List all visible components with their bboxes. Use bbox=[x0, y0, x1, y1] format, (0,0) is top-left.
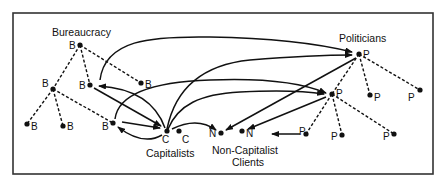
relationship-arrows bbox=[94, 37, 356, 139]
node-label-p: P bbox=[363, 49, 370, 60]
politicians-label: Politicians bbox=[339, 32, 386, 44]
bureaucracy-node bbox=[138, 80, 143, 85]
node-label-b: B bbox=[42, 78, 49, 89]
politician-node bbox=[417, 87, 422, 92]
node-label-p: P bbox=[331, 131, 338, 142]
politician-top-node bbox=[356, 51, 361, 56]
bureaucracy-node bbox=[50, 86, 55, 91]
politician-node bbox=[391, 131, 396, 136]
bureaucracy-node bbox=[60, 123, 65, 128]
node-label-p: P bbox=[383, 131, 390, 142]
node-label-b: B bbox=[79, 80, 86, 91]
node-label-p: P bbox=[336, 88, 343, 99]
non-capitalist-label-line1: Non-Capitalist bbox=[212, 144, 278, 156]
node-label-b: B bbox=[67, 121, 74, 132]
non-capitalist-label-line2: Clients bbox=[232, 156, 264, 168]
client-node bbox=[218, 130, 223, 135]
node-label-c: C bbox=[182, 134, 189, 145]
node-label-p: P bbox=[374, 92, 381, 103]
capitalists-label: Capitalists bbox=[146, 147, 194, 159]
node-label-b: B bbox=[145, 79, 152, 90]
node-label-p: P bbox=[299, 126, 306, 137]
bureaucracy-label: Bureaucracy bbox=[52, 26, 112, 38]
bureaucracy-node bbox=[87, 82, 92, 87]
capitalist-node bbox=[176, 128, 181, 133]
politician-node bbox=[339, 132, 344, 137]
client-node bbox=[239, 128, 244, 133]
bureaucracy-top-node bbox=[77, 42, 82, 47]
politician-node bbox=[329, 91, 334, 96]
politician-node bbox=[367, 92, 372, 97]
node-label-b: B bbox=[102, 121, 109, 132]
node-label-n: N bbox=[246, 128, 253, 139]
node-label-b: B bbox=[31, 121, 38, 132]
node-label-p: P bbox=[408, 92, 415, 103]
clientelism-network-diagram: B B B B B B B C C N N P P P P P P P Bure… bbox=[0, 0, 448, 184]
bureaucracy-node bbox=[110, 120, 115, 125]
node-label-b: B bbox=[69, 40, 76, 51]
capitalist-node bbox=[164, 128, 169, 133]
node-label-c: C bbox=[162, 134, 169, 145]
bureaucracy-node bbox=[24, 121, 29, 126]
node-label-n: N bbox=[209, 128, 216, 139]
